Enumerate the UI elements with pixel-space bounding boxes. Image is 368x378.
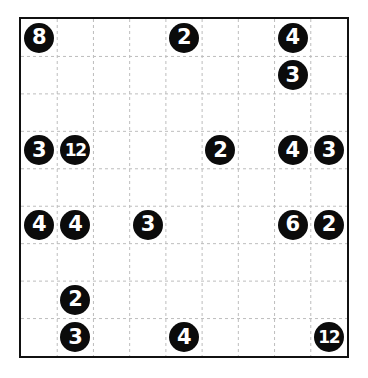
empty-cell[interactable] — [311, 169, 347, 206]
grid-cell-r1-c7[interactable]: 3 — [275, 56, 311, 93]
grid-cell-r0-c6[interactable] — [238, 19, 274, 56]
grid-cell-r8-c1[interactable]: 3 — [57, 319, 93, 356]
grid-cell-r5-c1[interactable]: 4 — [57, 206, 93, 243]
grid-cell-r4-c4[interactable] — [166, 169, 202, 206]
grid-cell-r1-c6[interactable] — [238, 56, 274, 93]
grid-cell-r5-c7[interactable]: 6 — [275, 206, 311, 243]
grid-cell-r4-c5[interactable] — [202, 169, 238, 206]
grid-cell-r7-c0[interactable] — [21, 281, 57, 318]
empty-cell[interactable] — [166, 131, 202, 168]
grid-cell-r4-c8[interactable] — [311, 169, 347, 206]
grid-cell-r3-c5[interactable]: 2 — [202, 131, 238, 168]
grid-cell-r5-c4[interactable] — [166, 206, 202, 243]
empty-cell[interactable] — [21, 244, 57, 281]
grid-cell-r3-c4[interactable] — [166, 131, 202, 168]
grid-cell-r0-c1[interactable] — [57, 19, 93, 56]
grid-cell-r7-c8[interactable] — [311, 281, 347, 318]
empty-cell[interactable] — [130, 94, 166, 131]
empty-cell[interactable] — [166, 56, 202, 93]
empty-cell[interactable] — [202, 19, 238, 56]
empty-cell[interactable] — [275, 169, 311, 206]
empty-cell[interactable] — [311, 19, 347, 56]
empty-cell[interactable] — [275, 94, 311, 131]
empty-cell[interactable] — [93, 319, 129, 356]
empty-cell[interactable] — [130, 131, 166, 168]
grid-cell-r3-c2[interactable] — [93, 131, 129, 168]
grid-cell-r6-c0[interactable] — [21, 244, 57, 281]
grid-cell-r0-c3[interactable] — [130, 19, 166, 56]
grid-cell-r8-c4[interactable]: 4 — [166, 319, 202, 356]
grid-cell-r2-c8[interactable] — [311, 94, 347, 131]
grid-cell-r5-c2[interactable] — [93, 206, 129, 243]
empty-cell[interactable] — [21, 56, 57, 93]
empty-cell[interactable] — [238, 319, 274, 356]
grid-cell-r3-c8[interactable]: 3 — [311, 131, 347, 168]
puzzle-grid[interactable]: 82433122434436223412 — [19, 17, 349, 358]
grid-cell-r2-c6[interactable] — [238, 94, 274, 131]
empty-cell[interactable] — [238, 94, 274, 131]
grid-cell-r8-c0[interactable] — [21, 319, 57, 356]
empty-cell[interactable] — [202, 206, 238, 243]
empty-cell[interactable] — [93, 206, 129, 243]
empty-cell[interactable] — [238, 281, 274, 318]
grid-cell-r5-c3[interactable]: 3 — [130, 206, 166, 243]
grid-cell-r3-c1[interactable]: 12 — [57, 131, 93, 168]
empty-cell[interactable] — [166, 244, 202, 281]
grid-cell-r4-c7[interactable] — [275, 169, 311, 206]
empty-cell[interactable] — [238, 169, 274, 206]
empty-cell[interactable] — [275, 244, 311, 281]
empty-cell[interactable] — [202, 281, 238, 318]
grid-cell-r8-c6[interactable] — [238, 319, 274, 356]
grid-cell-r0-c5[interactable] — [202, 19, 238, 56]
grid-cell-r3-c0[interactable]: 3 — [21, 131, 57, 168]
grid-cell-r5-c0[interactable]: 4 — [21, 206, 57, 243]
grid-cell-r8-c2[interactable] — [93, 319, 129, 356]
grid-cell-r2-c2[interactable] — [93, 94, 129, 131]
grid-cell-r2-c0[interactable] — [21, 94, 57, 131]
grid-cell-r6-c4[interactable] — [166, 244, 202, 281]
empty-cell[interactable] — [93, 56, 129, 93]
empty-cell[interactable] — [130, 169, 166, 206]
empty-cell[interactable] — [93, 281, 129, 318]
empty-cell[interactable] — [166, 281, 202, 318]
grid-cell-r1-c5[interactable] — [202, 56, 238, 93]
grid-cell-r6-c2[interactable] — [93, 244, 129, 281]
grid-cell-r8-c8[interactable]: 12 — [311, 319, 347, 356]
grid-cell-r1-c0[interactable] — [21, 56, 57, 93]
empty-cell[interactable] — [202, 169, 238, 206]
empty-cell[interactable] — [238, 56, 274, 93]
grid-cell-r3-c3[interactable] — [130, 131, 166, 168]
empty-cell[interactable] — [238, 206, 274, 243]
grid-cell-r1-c3[interactable] — [130, 56, 166, 93]
grid-cell-r1-c4[interactable] — [166, 56, 202, 93]
empty-cell[interactable] — [21, 281, 57, 318]
grid-cell-r2-c4[interactable] — [166, 94, 202, 131]
grid-cell-r7-c4[interactable] — [166, 281, 202, 318]
grid-cell-r6-c3[interactable] — [130, 244, 166, 281]
grid-cell-r4-c0[interactable] — [21, 169, 57, 206]
empty-cell[interactable] — [57, 19, 93, 56]
empty-cell[interactable] — [93, 94, 129, 131]
empty-cell[interactable] — [93, 169, 129, 206]
empty-cell[interactable] — [130, 319, 166, 356]
grid-cell-r1-c1[interactable] — [57, 56, 93, 93]
empty-cell[interactable] — [130, 19, 166, 56]
grid-cell-r5-c8[interactable]: 2 — [311, 206, 347, 243]
empty-cell[interactable] — [93, 19, 129, 56]
grid-cell-r7-c6[interactable] — [238, 281, 274, 318]
grid-cell-r8-c5[interactable] — [202, 319, 238, 356]
grid-cell-r4-c2[interactable] — [93, 169, 129, 206]
empty-cell[interactable] — [21, 319, 57, 356]
grid-cell-r0-c7[interactable]: 4 — [275, 19, 311, 56]
grid-cell-r2-c1[interactable] — [57, 94, 93, 131]
empty-cell[interactable] — [57, 94, 93, 131]
grid-cell-r0-c0[interactable]: 8 — [21, 19, 57, 56]
grid-cell-r4-c1[interactable] — [57, 169, 93, 206]
grid-cell-r8-c7[interactable] — [275, 319, 311, 356]
empty-cell[interactable] — [21, 169, 57, 206]
empty-cell[interactable] — [130, 244, 166, 281]
grid-cell-r1-c8[interactable] — [311, 56, 347, 93]
grid-cell-r0-c2[interactable] — [93, 19, 129, 56]
empty-cell[interactable] — [130, 281, 166, 318]
empty-cell[interactable] — [93, 244, 129, 281]
